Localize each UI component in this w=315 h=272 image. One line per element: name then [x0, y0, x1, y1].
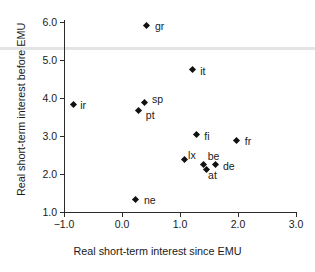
data-point-label-de: de [223, 161, 235, 172]
x-tick [180, 213, 181, 217]
data-point-label-lx: lx [188, 150, 196, 161]
y-tick-label: 4.0 [31, 93, 57, 104]
y-tick-label: 2.0 [31, 169, 57, 180]
data-point-label-gr: gr [155, 21, 164, 32]
x-tick-label: 1.0 [160, 219, 200, 230]
data-point-lx [181, 156, 188, 163]
x-tick-label: 2.0 [218, 219, 258, 230]
data-point-label-it: it [200, 66, 205, 77]
data-point-label-fi: fi [204, 131, 209, 142]
x-tick [64, 213, 65, 217]
data-point-label-fr: fr [245, 136, 251, 147]
data-point-label-ne: ne [144, 195, 156, 206]
x-tick-label: 0.0 [102, 219, 142, 230]
plot-area [64, 22, 296, 212]
data-point-pt [135, 107, 142, 114]
x-tick [122, 213, 123, 217]
data-point-fi [193, 131, 200, 138]
y-tick-label: 5.0 [31, 55, 57, 66]
y-axis-title: Real short-term interest before EMU [16, 14, 27, 204]
x-axis-title: Real short-term interest since EMU [0, 246, 315, 257]
data-point-fr [233, 137, 240, 144]
data-point-label-sp: sp [152, 94, 163, 105]
y-tick-label: 6.0 [31, 17, 57, 28]
data-point-it [189, 66, 196, 73]
chart-figure: 1.02.03.04.05.06.0 −1.00.01.02.03.0 Real… [0, 0, 315, 272]
data-point-ne [132, 196, 139, 203]
data-point-label-at: at [208, 170, 217, 181]
x-tick-label: −1.0 [44, 219, 84, 230]
data-point-ir [70, 101, 77, 108]
data-point-gr [143, 21, 150, 28]
data-point-de [212, 161, 219, 168]
data-point-label-pt: pt [146, 110, 155, 121]
x-tick [238, 213, 239, 217]
y-tick-label: 1.0 [31, 207, 57, 218]
y-tick-label: 3.0 [31, 131, 57, 142]
data-point-label-be: be [208, 151, 220, 162]
data-point-sp [140, 99, 147, 106]
data-point-label-ir: ir [80, 100, 86, 111]
x-tick [296, 213, 297, 217]
x-tick-label: 3.0 [276, 219, 315, 230]
